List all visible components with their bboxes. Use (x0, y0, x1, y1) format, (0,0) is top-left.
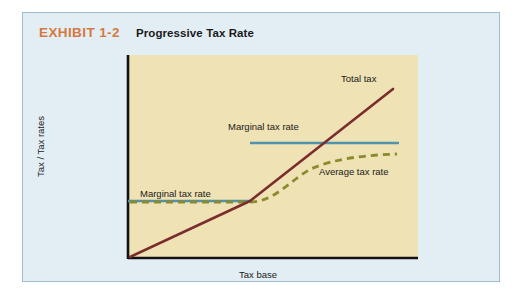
total-tax-label: Total tax (341, 73, 376, 84)
exhibit-panel: EXHIBIT 1-2 Progressive Tax Rate Tax / T… (22, 12, 500, 282)
chart-plot-svg (23, 13, 501, 283)
progressive-tax-rate-chart: Tax / Tax rates Tax base Total tax Margi… (23, 13, 501, 283)
x-axis-title: Tax base (178, 269, 338, 280)
y-axis-title: Tax / Tax rates (35, 92, 46, 202)
marginal-tax-rate-lower-label: Marginal tax rate (140, 188, 211, 199)
average-tax-rate-label: Average tax rate (319, 166, 389, 177)
plot-background (128, 55, 418, 259)
marginal-tax-rate-upper-label: Marginal tax rate (228, 121, 299, 132)
